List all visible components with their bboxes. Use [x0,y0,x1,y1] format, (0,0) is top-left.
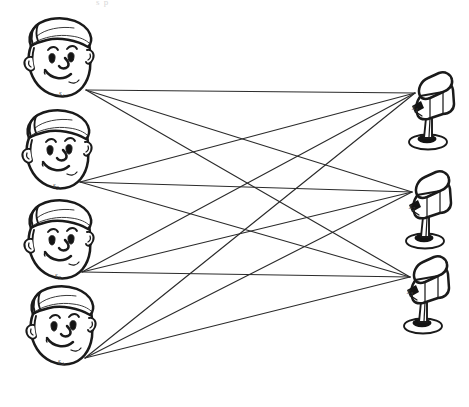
source-head-s2 [22,110,91,188]
diagram-svg: s1s2s3s4 x1x2x3 [0,0,469,407]
mixing-line-s3-x2 [82,192,412,272]
source-head-s1 [24,18,93,96]
mixing-line-s4-x2 [85,192,412,358]
source-head-s3 [24,200,93,278]
source-heads-group: s1s2s3s4 [22,18,95,367]
mixing-line-s1-x2 [86,90,412,192]
speaker-head-icon [26,286,95,364]
mixing-lines-group [80,90,415,358]
mixing-line-s4-x3 [85,277,410,358]
speaker-head-icon [24,200,93,278]
mixing-line-s2-x1 [80,93,415,182]
speaker-head-icon [24,18,93,96]
source-head-s4 [26,286,95,364]
speaker-head-icon [22,110,91,188]
figure-canvas: s p [0,0,469,407]
mixing-line-s4-x1 [85,93,415,358]
mixing-line-s1-x1 [86,90,415,93]
microphones-group: x1x2x3 [404,72,454,333]
mixing-line-s3-x1 [82,93,415,272]
